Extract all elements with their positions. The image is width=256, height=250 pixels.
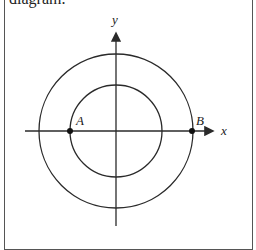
- point-b-label: B: [196, 113, 204, 128]
- point-a: [67, 128, 73, 134]
- x-axis-label: x: [220, 123, 227, 138]
- point-a-label: A: [75, 113, 84, 128]
- y-axis-label: y: [110, 12, 118, 27]
- point-b: [189, 128, 195, 134]
